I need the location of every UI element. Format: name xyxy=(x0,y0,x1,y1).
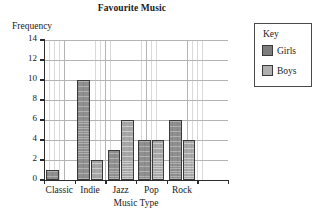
x-tick-mark xyxy=(136,180,137,184)
x-tick-label: Pop xyxy=(144,185,159,195)
y-tick-mark xyxy=(40,139,44,140)
legend-swatch-girls xyxy=(262,45,273,56)
y-tick-label: 6 xyxy=(33,114,38,123)
y-tick-mark xyxy=(40,99,44,100)
bar-classic-girls xyxy=(46,170,59,180)
legend-item-boys: Boys xyxy=(262,65,297,76)
y-tick-mark xyxy=(40,59,44,60)
x-tick-label: Indie xyxy=(80,185,100,195)
chart-root: Favourite Music Frequency 02468101214 Cl… xyxy=(0,0,318,223)
chart-title: Favourite Music xyxy=(62,3,202,13)
bar-pop-boys xyxy=(152,140,165,180)
y-tick-mark xyxy=(40,159,44,160)
legend-key-box: Key Girls Boys xyxy=(254,23,312,87)
legend-label-boys: Boys xyxy=(277,66,297,76)
y-tick-mark xyxy=(40,119,44,120)
legend-item-girls: Girls xyxy=(262,45,296,56)
y-axis-ticks: 02468101214 xyxy=(0,0,44,223)
legend-label-girls: Girls xyxy=(277,46,296,56)
y-tick-label: 12 xyxy=(28,54,37,63)
y-tick-label: 2 xyxy=(33,154,38,163)
bar-jazz-girls xyxy=(108,150,121,180)
x-tick-mark xyxy=(228,180,229,184)
x-tick-label: Classic xyxy=(46,185,73,195)
y-axis-line xyxy=(44,39,45,181)
bar-jazz-boys xyxy=(121,120,134,180)
legend-title: Key xyxy=(263,29,279,39)
y-tick-mark xyxy=(40,39,44,40)
x-tick-mark xyxy=(44,180,45,184)
x-tick-mark xyxy=(75,180,76,184)
y-tick-label: 14 xyxy=(28,34,37,43)
bar-indie-girls xyxy=(77,80,90,180)
bar-layer xyxy=(44,40,228,180)
bar-indie-boys xyxy=(91,160,104,180)
x-axis-label: Music Type xyxy=(44,198,228,208)
x-tick-mark xyxy=(167,180,168,184)
x-tick-mark xyxy=(105,180,106,184)
bar-pop-girls xyxy=(138,140,151,180)
plot-area xyxy=(44,40,228,180)
x-tick-label: Jazz xyxy=(112,185,128,195)
bar-rock-boys xyxy=(183,140,196,180)
x-tick-mark xyxy=(197,180,198,184)
y-tick-label: 10 xyxy=(28,74,37,83)
bar-rock-girls xyxy=(169,120,182,180)
y-tick-label: 4 xyxy=(33,134,38,143)
y-tick-mark xyxy=(40,79,44,80)
legend-swatch-boys xyxy=(262,65,273,76)
y-tick-label: 8 xyxy=(33,94,38,103)
x-tick-label: Rock xyxy=(172,185,192,195)
y-tick-label: 0 xyxy=(33,174,38,183)
